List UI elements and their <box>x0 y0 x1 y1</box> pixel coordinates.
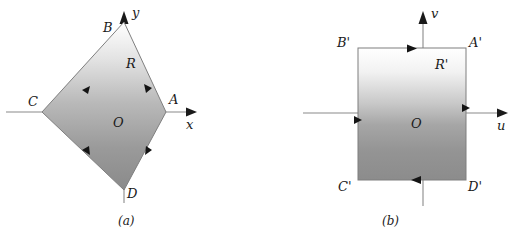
label-vertex-Dprime: D' <box>468 180 482 193</box>
label-axis-x: x <box>186 118 193 131</box>
label-origin-Oprime: O <box>411 117 422 130</box>
label-axis-y: y <box>132 6 139 19</box>
label-origin-O: O <box>113 116 124 129</box>
caption-a: (a) <box>118 215 135 227</box>
figure-root: B y A x C D O R (a) <box>0 0 530 246</box>
panel-a-xy-diamond: B y A x C D O R (a) <box>0 0 265 246</box>
label-vertex-A: A <box>169 93 178 106</box>
label-vertex-Cprime: C' <box>338 180 352 193</box>
caption-b: (b) <box>382 215 399 227</box>
region-R-diamond <box>42 22 166 190</box>
label-region-R: R <box>126 57 136 70</box>
label-axis-v: v <box>431 7 438 20</box>
panel-b-uv-rectangle: B' A' C' D' v u O R' (b) <box>265 0 530 246</box>
label-vertex-Bprime: B' <box>337 36 350 49</box>
label-vertex-Aprime: A' <box>469 36 482 49</box>
panel-b-graphic <box>265 0 530 246</box>
label-vertex-C: C <box>28 95 38 108</box>
label-vertex-B: B <box>103 21 113 34</box>
orientation-arrow-AD <box>145 146 152 155</box>
label-vertex-D: D <box>127 187 137 200</box>
panel-a-graphic <box>0 0 265 246</box>
label-axis-u: u <box>497 119 505 132</box>
region-Rprime-rectangle <box>358 48 466 180</box>
label-region-Rprime: R' <box>435 58 448 71</box>
